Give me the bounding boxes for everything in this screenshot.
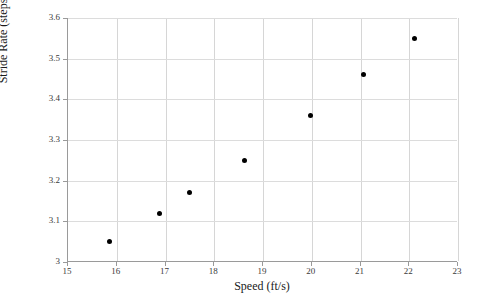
y-tick-mark [63, 221, 67, 222]
scatter-chart: 151617181920212223 33.13.23.33.43.53.6 S… [0, 0, 481, 298]
x-tick-label: 22 [396, 266, 420, 277]
gridline-horizontal [68, 221, 457, 222]
x-tick-label: 16 [104, 266, 128, 277]
y-tick-label: 3.6 [30, 12, 60, 23]
x-tick-mark [457, 262, 458, 266]
y-tick-label: 3.1 [30, 215, 60, 226]
x-tick-mark [262, 262, 263, 266]
y-tick-mark [63, 140, 67, 141]
y-tick-label: 3.3 [30, 134, 60, 145]
y-tick-mark [63, 262, 67, 263]
y-tick-label: 3.4 [30, 93, 60, 104]
x-tick-label: 15 [55, 266, 79, 277]
gridline-horizontal [68, 140, 457, 141]
x-tick-mark [360, 262, 361, 266]
data-point [308, 113, 313, 118]
y-tick-mark [63, 181, 67, 182]
data-point [361, 72, 366, 77]
gridline-horizontal [68, 18, 457, 19]
y-tick-mark [63, 59, 67, 60]
x-tick-mark [311, 262, 312, 266]
data-point [412, 36, 417, 41]
y-tick-label: 3.5 [30, 53, 60, 64]
gridline-horizontal [68, 181, 457, 182]
x-tick-label: 18 [201, 266, 225, 277]
gridline-horizontal [68, 99, 457, 100]
chart-title [67, 0, 457, 1]
data-point [187, 190, 192, 195]
x-tick-label: 17 [153, 266, 177, 277]
x-tick-mark [165, 262, 166, 266]
y-tick-mark [63, 99, 67, 100]
y-tick-mark [63, 18, 67, 19]
x-tick-label: 21 [348, 266, 372, 277]
x-tick-label: 19 [250, 266, 274, 277]
data-point [107, 239, 112, 244]
y-tick-label: 3.2 [30, 175, 60, 186]
gridline-vertical [458, 18, 459, 261]
x-tick-label: 20 [299, 266, 323, 277]
gridline-horizontal [68, 59, 457, 60]
x-tick-mark [408, 262, 409, 266]
data-point [157, 211, 162, 216]
x-tick-mark [67, 262, 68, 266]
data-point [242, 158, 247, 163]
y-axis-label: Stride Rate (steps/s) [0, 0, 11, 157]
x-tick-label: 23 [445, 266, 469, 277]
x-tick-mark [116, 262, 117, 266]
y-tick-label: 3 [30, 256, 60, 267]
plot-area [67, 18, 457, 262]
x-axis-label: Speed (ft/s) [67, 279, 457, 294]
x-tick-mark [213, 262, 214, 266]
